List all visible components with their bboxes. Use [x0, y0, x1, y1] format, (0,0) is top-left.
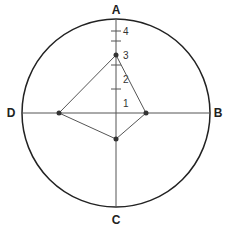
point-d: [57, 111, 62, 116]
svg-text:1: 1: [123, 98, 129, 109]
point-c: [114, 137, 119, 142]
axis-label-a: A: [112, 3, 121, 17]
axis-label-b: B: [214, 106, 223, 120]
svg-text:3: 3: [123, 50, 129, 61]
axis-label-c: C: [112, 213, 121, 227]
point-b: [144, 111, 149, 116]
radar-diagram: 1 2 3 4 A B C D: [0, 0, 228, 229]
svg-text:4: 4: [123, 26, 129, 37]
point-a: [114, 53, 119, 58]
svg-text:2: 2: [123, 74, 129, 85]
axis-label-d: D: [7, 106, 16, 120]
